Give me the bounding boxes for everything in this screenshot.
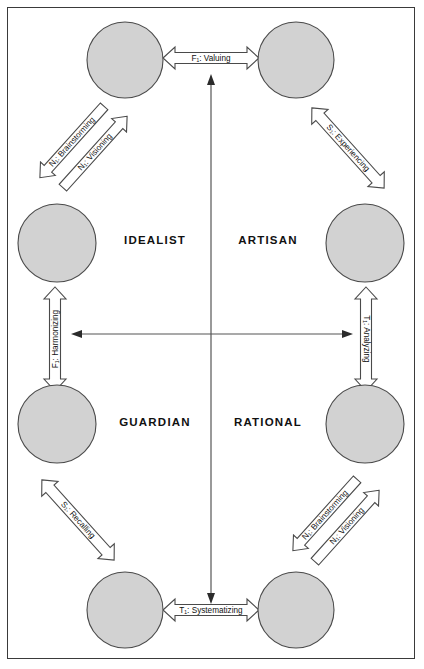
node-circle-bottom-right[interactable] xyxy=(258,572,334,648)
edge-label-valuing: F₁: Valuing xyxy=(191,54,230,63)
node-circle-low-right[interactable] xyxy=(326,385,404,463)
node-circle-mid-left[interactable] xyxy=(18,204,96,282)
horizontal-axis-arrowhead-left xyxy=(71,330,82,338)
horizontal-axis-arrowhead-right xyxy=(342,330,353,338)
edge-label-analyzing: T₁: Analyzing xyxy=(362,315,371,362)
node-circle-top-left[interactable] xyxy=(87,22,163,98)
diagram-stage: IDEALIST ARTISAN GUARDIAN RATIONAL F₁: V… xyxy=(0,0,424,669)
edge-label-systematizing: T₁: Systematizing xyxy=(179,606,242,615)
quadrant-label-idealist: IDEALIST xyxy=(124,234,186,246)
diagram-canvas xyxy=(0,0,424,669)
node-circle-mid-right[interactable] xyxy=(326,204,404,282)
node-circle-bottom-left[interactable] xyxy=(87,572,163,648)
quadrant-label-rational: RATIONAL xyxy=(234,416,302,428)
node-circle-top-right[interactable] xyxy=(258,22,334,98)
vertical-axis-arrowhead-top xyxy=(207,74,215,85)
quadrant-label-guardian: GUARDIAN xyxy=(119,416,191,428)
vertical-axis-arrowhead-bottom xyxy=(207,593,215,604)
node-circle-low-left[interactable] xyxy=(18,385,96,463)
edge-label-harmonizing: F₁: Harmonizing xyxy=(51,310,60,368)
quadrant-label-artisan: ARTISAN xyxy=(238,234,298,246)
